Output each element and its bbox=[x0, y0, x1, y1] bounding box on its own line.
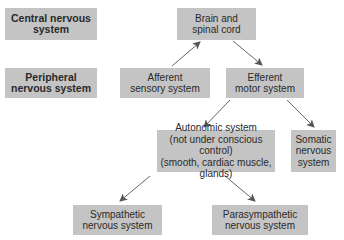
arrow-brain-to-efferent bbox=[233, 41, 262, 65]
afferent-sensory-node: Afferent sensory system bbox=[120, 68, 210, 98]
afferent-text: Afferent sensory system bbox=[130, 72, 199, 95]
autonomic-text: Autonomic system (not under conscious co… bbox=[157, 122, 275, 180]
peripheral-nervous-system-label: Peripheral nervous system bbox=[5, 68, 97, 98]
arrow-autonomic-to-sympathetic bbox=[120, 176, 150, 201]
central-nervous-system-label: Central nervous system bbox=[5, 8, 97, 40]
somatic-nervous-system-node: Somatic nervous system bbox=[291, 130, 336, 172]
brain-spinal-cord-node: Brain and spinal cord bbox=[177, 8, 256, 40]
efferent-text: Efferent motor system bbox=[235, 72, 295, 95]
sympathetic-nervous-system-node: Sympathetic nervous system bbox=[73, 205, 162, 235]
arrow-afferent-to-brain bbox=[172, 42, 200, 66]
brain-text: Brain and spinal cord bbox=[192, 13, 240, 36]
peripheral-label-text: Peripheral nervous system bbox=[11, 72, 91, 95]
central-label-text: Central nervous system bbox=[11, 13, 91, 36]
efferent-motor-node: Efferent motor system bbox=[226, 68, 304, 98]
somatic-text: Somatic nervous system bbox=[295, 134, 331, 169]
parasympathetic-text: Parasympathetic nervous system bbox=[223, 209, 297, 232]
sympathetic-text: Sympathetic nervous system bbox=[82, 209, 152, 232]
autonomic-system-node: Autonomic system (not under conscious co… bbox=[157, 130, 275, 172]
arrow-efferent-to-somatic bbox=[287, 100, 314, 127]
arrow-autonomic-to-parasympathetic bbox=[225, 176, 255, 201]
parasympathetic-nervous-system-node: Parasympathetic nervous system bbox=[212, 205, 308, 235]
